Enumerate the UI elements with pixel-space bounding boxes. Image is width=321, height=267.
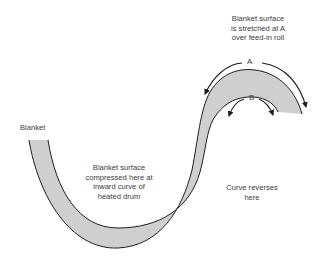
- label-compressed-line-4: heated drum: [72, 192, 166, 202]
- label-point-b: B: [249, 93, 254, 103]
- label-stretched: Blanket surface is stretched at A over f…: [218, 14, 298, 43]
- label-compressed-line-2: compressed here at: [72, 173, 166, 183]
- blanket-band: [29, 70, 302, 249]
- label-reverses-line-1: Curve reverses: [212, 183, 292, 193]
- label-stretched-line-3: over feed-in roll: [218, 33, 298, 43]
- label-stretched-line-2: is stretched at A: [218, 24, 298, 34]
- label-compressed-line-1: Blanket surface: [72, 163, 166, 173]
- label-stretched-line-1: Blanket surface: [218, 14, 298, 24]
- label-reverses: Curve reverses here: [212, 183, 292, 202]
- label-reverses-line-2: here: [212, 193, 292, 203]
- label-blanket: Blanket: [20, 123, 45, 133]
- label-compressed-line-3: inward curve of: [72, 182, 166, 192]
- label-compressed: Blanket surface compressed here at inwar…: [72, 163, 166, 201]
- label-point-a: A: [247, 57, 252, 67]
